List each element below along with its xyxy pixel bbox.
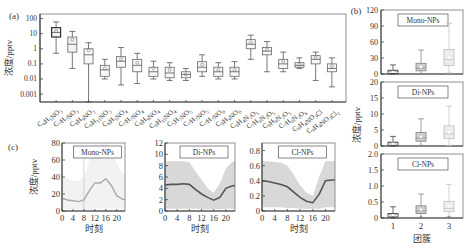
x-tick-label: 20 xyxy=(321,213,330,223)
y-tick-label: 0.1 xyxy=(28,59,38,68)
panel-c-xlabel: 时刻 xyxy=(290,223,308,234)
panel-b-ylabel: 浓度/pptv xyxy=(351,106,362,143)
y-tick-label: 0.01 xyxy=(24,74,37,83)
x-tick-label: 4 xyxy=(175,213,180,223)
box-C7H7NO3 xyxy=(68,31,77,102)
panel-c-ylabel: 浓度/pptv xyxy=(28,158,39,195)
legend-label: Mono-NPs xyxy=(81,148,114,157)
box-C8H8N2O5 xyxy=(279,52,288,102)
x-tick-label: 12 xyxy=(296,213,305,223)
box-C6H5NO4 xyxy=(117,48,126,102)
box-C6H4NO3Cl xyxy=(311,52,320,102)
y-tick-label: 30 xyxy=(370,54,378,63)
x-tick-label: 20 xyxy=(113,213,122,223)
panel-b-xlabel: 团簇 xyxy=(413,233,431,244)
y-tick-label: 10 xyxy=(30,29,38,38)
y-tick-label: 1.5 xyxy=(368,166,378,175)
figure: (a)1001010.10.010.001浓度/pptvC6H5NO3C7H7N… xyxy=(0,0,469,250)
x-tick-label: 12 xyxy=(197,213,206,223)
y-tick-label: 5 xyxy=(374,126,378,135)
x-tick-label: 0 xyxy=(260,213,264,223)
y-tick-label: 40 xyxy=(52,172,61,182)
panel-b-label: (b) xyxy=(351,6,362,16)
x-tick-label: 12 xyxy=(91,213,100,223)
y-tick-label: 4 xyxy=(159,183,164,193)
x-tick-label: 4 xyxy=(71,213,76,223)
y-tick-label: 90 xyxy=(370,22,378,31)
y-tick-label: 20 xyxy=(52,189,61,199)
panel-c-xlabel: 时刻 xyxy=(191,223,209,234)
y-tick-label: 2 xyxy=(159,195,163,205)
panel-a-ylabel: 浓度/pptv xyxy=(3,39,14,76)
box-C7H7NO4 xyxy=(133,53,142,102)
band xyxy=(165,161,235,209)
y-tick-label: 60 xyxy=(370,38,378,47)
box-C8H9NO3 xyxy=(84,43,93,102)
box-C6H4NO3Cl2 xyxy=(327,58,336,102)
panel-c-label: (c) xyxy=(8,142,18,152)
box-C8H9NO4 xyxy=(149,61,158,102)
y-tick-label: 0.001 xyxy=(20,90,37,99)
y-tick-label: 0.8 xyxy=(249,146,260,156)
x-tick-label: 0 xyxy=(163,213,167,223)
x-tick-label: 8 xyxy=(285,213,289,223)
x-tick-label: 3 xyxy=(447,221,452,231)
y-tick-label: 0.5 xyxy=(368,198,378,207)
y-tick-label: 0.4 xyxy=(249,176,260,186)
y-tick-label: 100 xyxy=(26,14,38,23)
legend-label: Di-NPs xyxy=(193,148,216,157)
x-tick-label: 20 xyxy=(222,213,231,223)
box-C6H4N2O5 xyxy=(246,35,255,102)
x-tick-label: 8 xyxy=(82,213,86,223)
x-tick-label: 2 xyxy=(419,221,424,231)
y-tick-label: 10 xyxy=(370,110,378,119)
y-tick-label: 10 xyxy=(155,149,164,159)
legend-label: Cl-NPs xyxy=(291,148,313,157)
box-C7H6N2O6 xyxy=(295,58,304,102)
y-tick-label: 0.6 xyxy=(249,161,260,171)
x-tick-label: 16 xyxy=(102,213,111,223)
x-tick-label: 8 xyxy=(187,213,191,223)
x-tick-label: 0 xyxy=(60,213,64,223)
y-tick-label: 120 xyxy=(366,6,378,15)
legend-label: Mono-NPs xyxy=(407,16,440,25)
y-tick-label: 6 xyxy=(159,172,163,182)
y-tick-label: 80 xyxy=(52,138,61,148)
y-tick-label: 15 xyxy=(370,94,378,103)
box-C8H9NO6 xyxy=(230,62,239,102)
box-C7H7NO6 xyxy=(214,63,223,102)
x-tick-label: 16 xyxy=(309,213,318,223)
y-tick-label: 0 xyxy=(374,214,378,223)
box-C6H5NO3 xyxy=(52,22,61,102)
box-C6H11NO4 xyxy=(165,63,174,102)
y-tick-label: 1.0 xyxy=(368,182,378,191)
x-tick-label: 16 xyxy=(209,213,218,223)
y-tick-label: 20 xyxy=(370,78,378,87)
y-tick-label: 12 xyxy=(155,138,164,148)
y-tick-label: 0.2 xyxy=(249,191,260,201)
y-tick-label: 1 xyxy=(33,44,37,53)
y-tick-label: 60 xyxy=(52,155,61,165)
legend-label: Di-NPs xyxy=(412,88,435,97)
x-tick-label: 4 xyxy=(273,213,278,223)
y-tick-label: 2.0 xyxy=(368,150,378,159)
box-C5H7NO5 xyxy=(181,68,190,102)
x-tick-label: 1 xyxy=(391,221,396,231)
box-C7H7NO5 xyxy=(198,55,207,102)
panel-a-label: (a) xyxy=(9,11,19,21)
box-C7H6N2O5 xyxy=(263,42,272,102)
panel-c-xlabel: 时刻 xyxy=(85,223,103,234)
y-tick-label: 8 xyxy=(159,161,163,171)
legend-label: Cl-NPs xyxy=(412,160,434,169)
box-C6H11NO3 xyxy=(100,59,109,102)
